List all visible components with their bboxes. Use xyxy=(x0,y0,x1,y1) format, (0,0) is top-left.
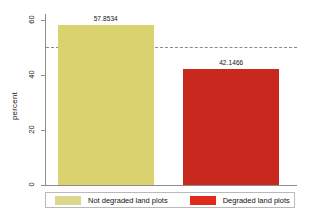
legend-item-not-degraded: Not degraded land plots xyxy=(55,193,168,207)
legend-swatch-icon-not-degraded xyxy=(55,196,81,205)
legend-item-degraded: Degraded land plots xyxy=(190,193,290,207)
legend-swatch-icon-degraded xyxy=(190,196,216,205)
y-tick-mark xyxy=(41,75,45,76)
y-tick-label: 40 xyxy=(27,66,36,82)
bar-not-degraded xyxy=(58,25,154,185)
plot-area: 57.853442.1466 xyxy=(46,14,297,185)
y-tick-label: 0 xyxy=(27,177,36,193)
x-axis-line xyxy=(45,185,297,186)
y-tick-mark xyxy=(41,130,45,131)
legend-label-degraded: Degraded land plots xyxy=(223,196,290,205)
y-tick-mark xyxy=(41,20,45,21)
y-tick-mark xyxy=(41,185,45,186)
y-axis-title: percent xyxy=(10,76,19,136)
bar-chart: percent 0204060 57.853442.1466 Not degra… xyxy=(0,0,314,212)
y-tick-label: 60 xyxy=(27,11,36,27)
bar-degraded xyxy=(183,69,279,185)
y-tick-label: 20 xyxy=(27,121,36,137)
legend-label-not-degraded: Not degraded land plots xyxy=(88,196,168,205)
bar-value-label: 42.1466 xyxy=(183,59,279,66)
chart-legend: Not degraded land plots Degraded land pl… xyxy=(45,192,295,208)
bar-value-label: 57.8534 xyxy=(58,15,154,22)
